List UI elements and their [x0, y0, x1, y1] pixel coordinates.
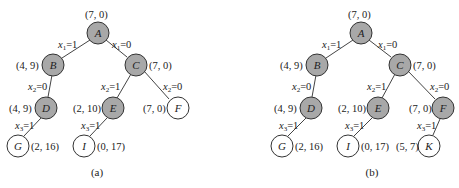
edge-label-a-C-F: x2=0	[162, 81, 182, 94]
svg-text:D: D	[41, 102, 50, 114]
svg-text:(5, 7): (5, 7)	[396, 141, 419, 153]
caption-b: (b)	[366, 166, 379, 179]
svg-text:(4, 9): (4, 9)	[280, 60, 303, 72]
svg-text:G: G	[278, 140, 286, 152]
svg-text:B: B	[314, 59, 321, 71]
svg-text:(7, 0): (7, 0)	[348, 9, 371, 21]
node-a-B: B (4, 9)	[16, 54, 64, 76]
svg-text:(7, 0): (7, 0)	[149, 60, 172, 72]
edge-label-b-C-F: x2=0	[429, 81, 449, 94]
node-b-G: G (2, 16)	[271, 135, 323, 157]
edge-label-b-A-C: x1=0	[377, 39, 397, 52]
node-b-E: E (2, 10)	[338, 97, 389, 119]
edge-label-a-D-G: x3=1	[14, 120, 34, 133]
svg-text:C: C	[132, 59, 140, 71]
edge-label-b-C-E: x2=1	[366, 81, 386, 94]
node-b-A: A (7, 0)	[348, 9, 372, 44]
edge-label-b-E-I: x3=1	[344, 120, 364, 133]
svg-text:A: A	[94, 27, 102, 39]
svg-text:F: F	[174, 102, 182, 114]
node-a-F: F (7, 0)	[143, 97, 189, 119]
svg-text:(4, 9): (4, 9)	[9, 103, 32, 115]
node-b-C: C (7, 0)	[389, 54, 436, 76]
svg-text:E: E	[374, 102, 382, 114]
node-b-D: D (4, 9)	[274, 97, 322, 119]
node-b-B: B (4, 9)	[280, 54, 328, 76]
edge-b-B-D	[312, 75, 316, 97]
svg-text:G: G	[14, 140, 22, 152]
edge-label-b-B-D: x2=0	[291, 81, 311, 94]
edge-label-a-A-C: x1=0	[111, 39, 131, 52]
svg-text:K: K	[424, 140, 433, 152]
svg-text:(7, 0): (7, 0)	[85, 9, 108, 21]
svg-text:A: A	[357, 27, 365, 39]
tree-b: x1=1 x1=0 x2=0 x2=1 x2=0 x3=1 x3=1 x3=1 …	[271, 9, 454, 179]
svg-text:(2, 10): (2, 10)	[338, 103, 366, 115]
svg-text:(4, 9): (4, 9)	[274, 103, 297, 115]
edge-label-b-F-K: x3=1	[416, 120, 436, 133]
edge-label-b-D-G: x3=1	[278, 120, 298, 133]
node-a-E: E (2, 10)	[73, 97, 124, 119]
svg-text:(0, 17): (0, 17)	[97, 141, 125, 153]
svg-text:(7, 0): (7, 0)	[413, 60, 436, 72]
node-a-A: A (7, 0)	[85, 9, 109, 44]
edge-a-B-D	[48, 75, 52, 97]
svg-text:E: E	[109, 102, 117, 114]
svg-text:(4, 9): (4, 9)	[16, 60, 39, 72]
svg-text:F: F	[439, 102, 447, 114]
edge-label-a-E-I: x3=1	[80, 120, 100, 133]
node-b-K: K (5, 7)	[396, 135, 440, 157]
branch-and-bound-trees: x1=1 x1=0 x2=0 x2=1 x2=0 x3=1 x3=1 A (7,…	[0, 0, 459, 188]
caption-a: (a)	[91, 166, 104, 179]
edge-label-a-C-E: x2=1	[100, 81, 120, 94]
node-b-I: I (0, 17)	[337, 135, 389, 157]
svg-text:C: C	[396, 59, 404, 71]
node-a-D: D (4, 9)	[9, 97, 57, 119]
edge-label-a-B-D: x2=0	[27, 81, 47, 94]
node-a-I: I (0, 17)	[73, 135, 125, 157]
node-a-C: C (7, 0)	[125, 54, 172, 76]
svg-text:B: B	[50, 59, 57, 71]
svg-text:(0, 17): (0, 17)	[361, 141, 389, 153]
svg-text:(2, 16): (2, 16)	[295, 141, 323, 153]
svg-text:(2, 16): (2, 16)	[31, 141, 59, 153]
tree-a: x1=1 x1=0 x2=0 x2=1 x2=0 x3=1 x3=1 A (7,…	[7, 9, 189, 179]
node-a-G: G (2, 16)	[7, 135, 59, 157]
svg-text:(2, 10): (2, 10)	[73, 103, 101, 115]
node-b-F: F (7, 0)	[409, 97, 454, 119]
svg-text:(7, 0): (7, 0)	[143, 103, 166, 115]
svg-text:(7, 0): (7, 0)	[409, 103, 432, 115]
svg-text:D: D	[306, 102, 315, 114]
